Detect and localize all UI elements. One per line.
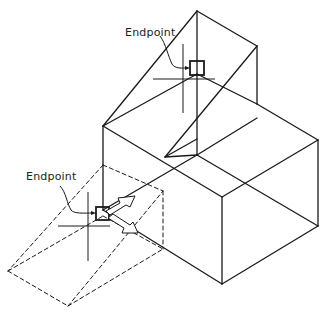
lower-crosshair-cursor	[58, 192, 110, 261]
move-direction-arrows-icon	[106, 196, 138, 233]
drawing-svg	[0, 0, 322, 313]
dashed-ghost-wedge	[8, 165, 163, 306]
box-solid	[103, 104, 318, 284]
isometric-drawing: Endpoint Endpoint	[0, 0, 322, 313]
lower-endpoint-label: Endpoint	[26, 170, 77, 183]
upper-endpoint-label: Endpoint	[125, 26, 176, 39]
